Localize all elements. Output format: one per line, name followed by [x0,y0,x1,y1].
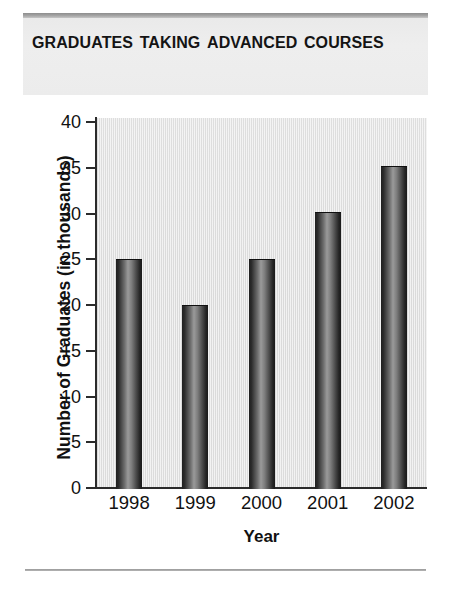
bar-2002 [381,166,407,489]
x-axis-tick-label: 1998 [94,494,164,513]
bar-2000 [249,259,275,489]
y-axis-tick [86,487,97,489]
y-axis-tick [86,167,97,169]
y-axis-tick [86,258,97,260]
y-axis-tick [86,121,97,123]
x-axis-tick-label: 2001 [293,494,363,513]
y-axis-tick [86,304,97,306]
bar-1998 [116,259,142,489]
x-axis-title: Year [96,527,427,547]
bar-1999 [182,305,208,489]
bar-2001 [315,212,341,489]
y-axis-line [95,117,97,489]
y-axis-tick [86,441,97,443]
y-axis-tick [86,350,97,352]
x-axis-tick-label: 2002 [359,494,429,513]
x-axis-tick-label: 1999 [160,494,230,513]
y-axis-title: Number of Graduates (in thousands) [54,118,75,498]
x-axis-tick-label: 2000 [227,494,297,513]
chart-figure: 4035302520151050 19981999200020012002 Ye… [0,0,453,591]
y-axis-tick [86,213,97,215]
bottom-rule [25,569,426,571]
y-axis-tick [86,396,97,398]
